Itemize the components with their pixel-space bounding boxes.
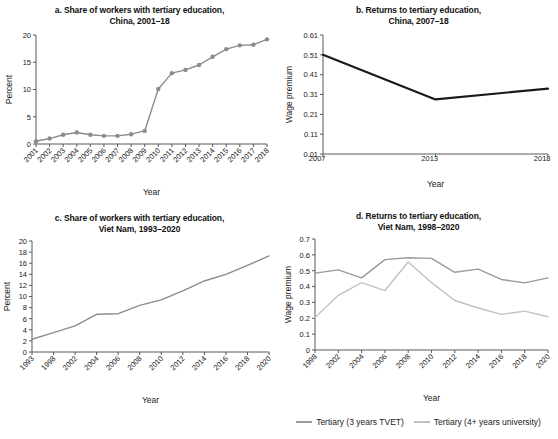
svg-text:20: 20 [19, 237, 27, 246]
svg-text:Wage premium: Wage premium [283, 266, 293, 323]
svg-text:Percent: Percent [4, 74, 14, 104]
svg-text:Wage premium: Wage premium [284, 66, 294, 123]
panel-b-title-line2: China, 2007–18 [289, 16, 548, 27]
svg-text:2: 2 [23, 337, 27, 346]
panel-a-title: a. Share of workers with tertiary educat… [0, 5, 279, 27]
svg-text:10: 10 [19, 292, 27, 301]
svg-text:2018: 2018 [233, 354, 251, 372]
svg-text:4: 4 [23, 326, 27, 335]
svg-text:2002: 2002 [324, 352, 342, 370]
svg-text:2002: 2002 [61, 354, 79, 372]
svg-text:2018: 2018 [510, 352, 528, 370]
svg-text:2013: 2013 [421, 154, 438, 163]
svg-text:2018: 2018 [253, 146, 271, 164]
panel-a-title-line2: China, 2001–18 [10, 16, 269, 27]
svg-text:0.6: 0.6 [300, 251, 310, 260]
svg-text:Year: Year [143, 187, 160, 197]
panel-d-title: d. Returns to tertiary education, Viet N… [279, 211, 558, 233]
panel-d-plot: 00.10.20.30.40.50.60.7199820022004200620… [279, 233, 558, 403]
panel-d-title-line1: d. Returns to tertiary education, [356, 211, 481, 221]
legend-label-university: Tertiary (4+ years university) [434, 417, 541, 427]
panel-a-title-line1: a. Share of workers with tertiary educat… [55, 5, 224, 15]
svg-text:15: 15 [23, 58, 31, 67]
panel-c-plot: 0246810121416182019931998200220042006200… [0, 235, 279, 405]
svg-text:2006: 2006 [371, 352, 389, 370]
svg-text:0.11: 0.11 [304, 130, 318, 139]
svg-text:1998: 1998 [39, 354, 57, 372]
svg-text:2014: 2014 [464, 352, 482, 370]
svg-text:2014: 2014 [190, 354, 208, 372]
panel-b-title: b. Returns to tertiary education, China,… [279, 5, 558, 27]
svg-text:2016: 2016 [212, 354, 230, 372]
svg-text:Year: Year [423, 393, 440, 403]
panel-d-title-line2: Viet Nam, 1998–2020 [289, 222, 548, 233]
svg-text:0: 0 [23, 348, 27, 357]
svg-text:0.3: 0.3 [300, 298, 310, 307]
panel-c: c. Share of workers with tertiary educat… [0, 208, 279, 413]
svg-text:0: 0 [27, 140, 31, 149]
svg-text:0.51: 0.51 [303, 51, 318, 60]
svg-text:0: 0 [306, 346, 310, 355]
svg-text:2004: 2004 [82, 354, 100, 372]
panel-b-title-line1: b. Returns to tertiary education, [356, 5, 481, 15]
svg-text:2020: 2020 [255, 354, 273, 372]
panel-b-plot: 0.010.110.210.310.410.510.61200720132018… [279, 27, 558, 197]
svg-text:Year: Year [142, 395, 159, 405]
panel-a: a. Share of workers with tertiary educat… [0, 0, 279, 205]
panel-c-svg: 0246810121416182019931998200220042006200… [0, 235, 279, 410]
svg-text:2007: 2007 [309, 154, 326, 163]
svg-text:2008: 2008 [394, 352, 412, 370]
legend-label-tvet: Tertiary (3 years TVET) [316, 417, 404, 427]
svg-text:2004: 2004 [347, 352, 365, 370]
svg-text:2020: 2020 [534, 352, 552, 370]
panel-a-plot: 0510152020012002200320042005200620072008… [0, 27, 279, 197]
svg-text:1993: 1993 [18, 354, 36, 372]
svg-text:2010: 2010 [147, 354, 165, 372]
legend-item-university: Tertiary (4+ years university) [414, 417, 541, 427]
legend-item-tvet: Tertiary (3 years TVET) [296, 417, 404, 427]
panel-d-svg: 00.10.20.30.40.50.60.7199820022004200620… [279, 233, 558, 408]
svg-text:16: 16 [19, 259, 27, 268]
svg-text:1998: 1998 [301, 352, 319, 370]
panel-c-title-line2: Viet Nam, 1993–2020 [10, 224, 269, 235]
panel-d: d. Returns to tertiary education, Viet N… [279, 206, 558, 411]
panel-b: b. Returns to tertiary education, China,… [279, 0, 558, 205]
svg-text:0.31: 0.31 [303, 90, 318, 99]
panel-c-title: c. Share of workers with tertiary educat… [0, 213, 279, 235]
svg-text:2016: 2016 [487, 352, 505, 370]
panel-b-svg: 0.010.110.210.310.410.510.61200720132018… [279, 27, 558, 202]
figure-panels: a. Share of workers with tertiary educat… [0, 0, 558, 439]
svg-text:12: 12 [19, 281, 27, 290]
svg-text:14: 14 [19, 270, 27, 279]
panel-a-svg: 0510152020012002200320042005200620072008… [0, 27, 279, 202]
svg-text:2006: 2006 [104, 354, 122, 372]
svg-text:0.41: 0.41 [303, 70, 318, 79]
svg-text:0.2: 0.2 [300, 314, 310, 323]
svg-text:20: 20 [23, 31, 31, 40]
svg-text:18: 18 [19, 248, 27, 257]
svg-text:0.61: 0.61 [303, 31, 318, 40]
svg-text:0.7: 0.7 [300, 235, 310, 244]
svg-text:6: 6 [23, 315, 27, 324]
svg-text:2012: 2012 [441, 352, 459, 370]
svg-text:2018: 2018 [534, 154, 551, 163]
panel-c-title-line1: c. Share of workers with tertiary educat… [55, 213, 224, 223]
panel-d-legend: Tertiary (3 years TVET) Tertiary (4+ yea… [279, 411, 558, 433]
svg-text:0.5: 0.5 [300, 267, 310, 276]
svg-text:0.21: 0.21 [303, 110, 318, 119]
svg-text:0.4: 0.4 [300, 282, 310, 291]
svg-text:2008: 2008 [125, 354, 143, 372]
svg-text:Percent: Percent [2, 281, 12, 311]
svg-text:10: 10 [23, 85, 31, 94]
legend-swatch-tvet [296, 421, 312, 423]
svg-text:5: 5 [27, 113, 31, 122]
svg-text:2010: 2010 [417, 352, 435, 370]
svg-text:Year: Year [427, 179, 444, 189]
svg-text:2012: 2012 [169, 354, 187, 372]
svg-text:8: 8 [23, 303, 27, 312]
svg-text:0.1: 0.1 [300, 330, 310, 339]
legend-swatch-university [414, 421, 430, 423]
